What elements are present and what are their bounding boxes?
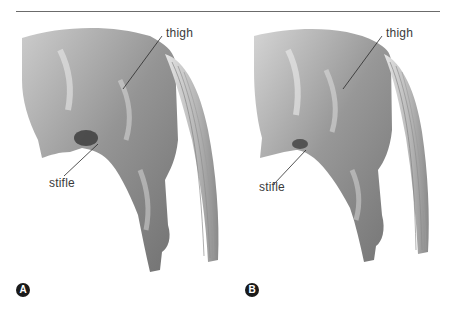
thigh-label-a: thigh bbox=[166, 26, 193, 40]
stifle-label-b: stifle bbox=[259, 180, 285, 194]
illustration-panel-a: thigh stifle bbox=[0, 20, 230, 280]
illustration-panel-b: thigh stifle bbox=[226, 20, 456, 280]
thigh-label-b: thigh bbox=[386, 26, 413, 40]
stifle-label-a: stifle bbox=[49, 176, 75, 190]
horse-hindquarter-sketch-b bbox=[226, 20, 456, 280]
panel-badge-b: B bbox=[245, 283, 259, 297]
top-divider-rule bbox=[16, 11, 440, 12]
horse-hindquarter-sketch-a bbox=[0, 20, 230, 280]
panel-badge-a: A bbox=[16, 283, 30, 297]
